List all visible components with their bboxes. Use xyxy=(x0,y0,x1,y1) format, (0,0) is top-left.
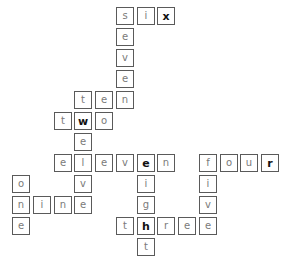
letter-cell[interactable]: g xyxy=(137,196,155,214)
letter-cell[interactable]: e xyxy=(74,133,92,151)
letter-cell-highlighted[interactable]: x xyxy=(157,7,175,25)
letter-cell[interactable]: e xyxy=(95,154,113,172)
letter-cell[interactable]: f xyxy=(199,154,217,172)
letter-cell[interactable]: v xyxy=(116,154,134,172)
letter-cell-highlighted[interactable]: h xyxy=(137,217,155,235)
letter-cell[interactable]: e xyxy=(178,217,196,235)
letter-cell[interactable]: l xyxy=(74,154,92,172)
letter-cell[interactable]: e xyxy=(116,28,134,46)
letter-cell[interactable]: i xyxy=(137,7,155,25)
letter-cell[interactable]: v xyxy=(116,49,134,67)
letter-cell[interactable]: e xyxy=(74,196,92,214)
letter-cell[interactable]: e xyxy=(12,217,30,235)
letter-cell[interactable]: o xyxy=(12,175,30,193)
letter-cell-highlighted[interactable]: w xyxy=(74,112,92,130)
letter-cell-highlighted[interactable]: r xyxy=(261,154,279,172)
letter-cell[interactable]: n xyxy=(54,196,72,214)
letter-cell[interactable]: v xyxy=(74,175,92,193)
letter-cell[interactable]: i xyxy=(199,175,217,193)
letter-cell[interactable]: t xyxy=(54,112,72,130)
letter-cell[interactable]: n xyxy=(12,196,30,214)
letter-cell[interactable]: v xyxy=(199,196,217,214)
letter-cell[interactable]: s xyxy=(116,7,134,25)
letter-cell[interactable]: t xyxy=(74,91,92,109)
letter-cell[interactable]: e xyxy=(116,70,134,88)
letter-cell[interactable]: e xyxy=(95,91,113,109)
letter-cell[interactable]: e xyxy=(54,154,72,172)
letter-cell[interactable]: i xyxy=(137,175,155,193)
letter-cell[interactable]: e xyxy=(199,217,217,235)
letter-cell[interactable]: r xyxy=(157,217,175,235)
letter-cell[interactable]: n xyxy=(157,154,175,172)
letter-cell[interactable]: i xyxy=(33,196,51,214)
number-word-crossword: sixevetentwoeelevenfouroviininegvethreet xyxy=(0,0,286,262)
letter-cell[interactable]: u xyxy=(240,154,258,172)
letter-cell[interactable]: t xyxy=(116,217,134,235)
letter-cell[interactable]: o xyxy=(220,154,238,172)
letter-cell[interactable]: t xyxy=(137,238,155,256)
letter-cell[interactable]: n xyxy=(116,91,134,109)
letter-cell[interactable]: o xyxy=(95,112,113,130)
letter-cell-highlighted[interactable]: e xyxy=(137,154,155,172)
